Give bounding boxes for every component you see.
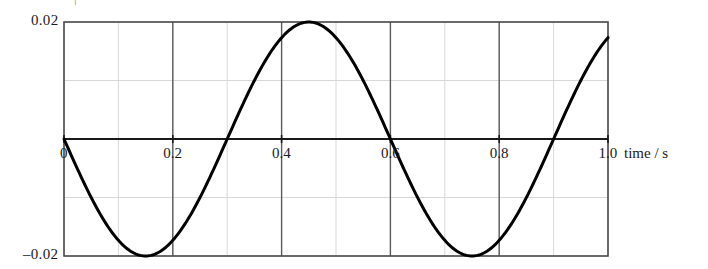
chart-canvas — [0, 0, 708, 269]
x-axis-tick-label-0-6: 0.6 — [381, 145, 400, 162]
x-axis-title: time / s — [624, 145, 668, 162]
x-axis-tick-label-1-0: 1.0 — [599, 145, 618, 162]
y-axis-tick-label-min: –0.02 — [23, 246, 58, 263]
x-axis-tick-label-0-4: 0.4 — [272, 145, 291, 162]
y-axis-tick-label-max: 0.02 — [31, 12, 58, 29]
graph-figure: | 0.02 –0.02 0 0.2 0.4 0.6 0.8 1.0 time … — [0, 0, 708, 269]
x-axis-tick-label-0: 0 — [60, 145, 68, 162]
x-axis-tick-label-0-2: 0.2 — [163, 145, 182, 162]
x-axis-tick-label-0-8: 0.8 — [490, 145, 509, 162]
